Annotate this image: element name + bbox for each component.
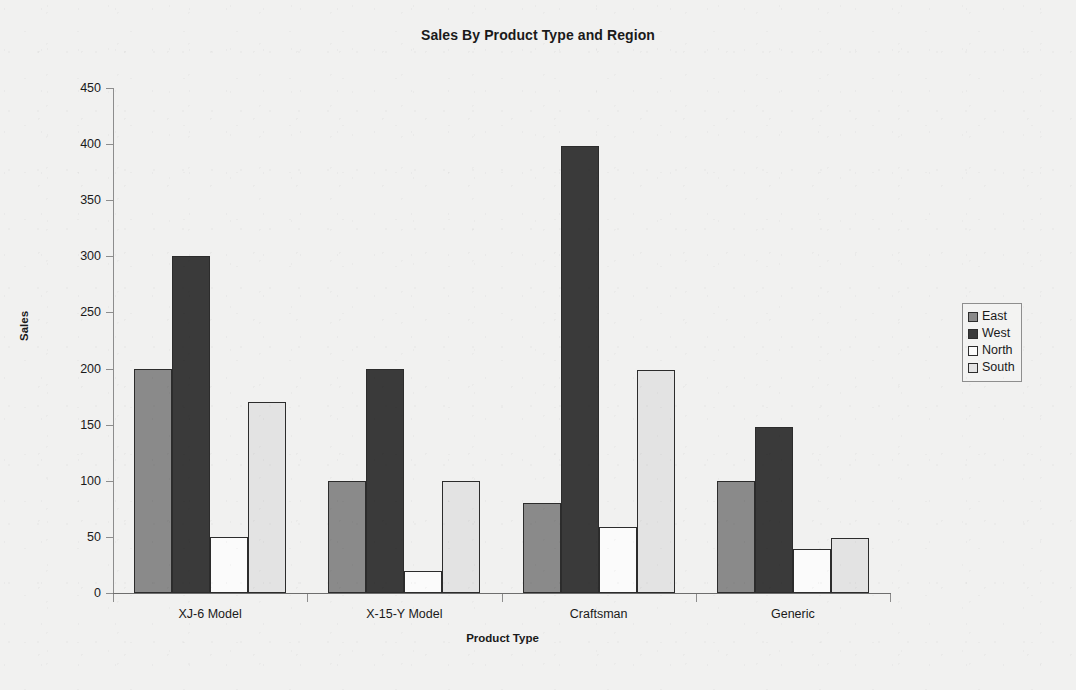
legend-item-label: West [982,327,1010,340]
legend-item-label: North [982,344,1013,357]
legend-swatch-icon [968,363,978,373]
bar-south-x-15-y-model [442,481,480,593]
y-axis-title: Sales [18,311,30,341]
y-axis-tick [106,312,113,313]
legend-swatch-icon [968,312,978,322]
bar-north-x-15-y-model [404,571,442,593]
y-axis-tick-label: 250 [61,305,101,319]
bar-west-xj-6-model [172,256,210,593]
chart-title: Sales By Product Type and Region [0,27,1076,43]
y-axis-tick [106,144,113,145]
y-axis-tick-label: 350 [61,193,101,207]
bar-south-xj-6-model [248,402,286,593]
y-axis-tick [106,369,113,370]
y-axis-tick-label: 0 [61,586,101,600]
x-axis-tick [307,594,308,602]
y-axis-tick [106,256,113,257]
bar-east-generic [717,481,755,593]
legend-swatch-icon [968,346,978,356]
legend-item-north[interactable]: North [968,342,1015,359]
y-axis-tick-label: 450 [61,81,101,95]
bar-east-xj-6-model [134,369,172,593]
plot-area [113,88,890,593]
bar-east-craftsman [523,503,561,593]
bar-north-xj-6-model [210,537,248,593]
y-axis-tick [106,593,113,594]
y-axis-tick [106,200,113,201]
y-axis-tick-label: 300 [61,249,101,263]
bar-south-generic [831,538,869,593]
legend-swatch-icon [968,329,978,339]
y-axis-tick [106,425,113,426]
y-axis-tick-label: 50 [61,530,101,544]
y-axis-tick-label: 400 [61,137,101,151]
x-axis-category-label: Generic [771,607,815,621]
y-axis-tick [106,537,113,538]
legend-item-south[interactable]: South [968,359,1015,376]
bar-west-generic [755,427,793,593]
x-axis-tick [890,594,891,602]
x-axis-category-label: XJ-6 Model [179,607,242,621]
legend-item-label: South [982,361,1015,374]
bar-north-craftsman [599,527,637,593]
y-axis-tick-label: 150 [61,418,101,432]
chart-legend: EastWestNorthSouth [962,303,1022,382]
bar-west-x-15-y-model [366,369,404,593]
legend-item-label: East [982,310,1007,323]
y-axis-tick [106,88,113,89]
legend-item-east[interactable]: East [968,308,1015,325]
y-axis-tick [106,481,113,482]
bar-south-craftsman [637,370,675,593]
x-axis-tick [696,594,697,602]
x-axis-category-label: X-15-Y Model [366,607,442,621]
y-axis-tick-label: 100 [61,474,101,488]
y-axis-tick-label: 200 [61,362,101,376]
bar-east-x-15-y-model [328,481,366,593]
bar-west-craftsman [561,146,599,593]
x-axis-tick [113,594,114,602]
x-axis-tick [502,594,503,602]
bar-north-generic [793,549,831,593]
legend-item-west[interactable]: West [968,325,1015,342]
x-axis-title: Product Type [0,632,1005,644]
x-axis-category-label: Craftsman [570,607,628,621]
